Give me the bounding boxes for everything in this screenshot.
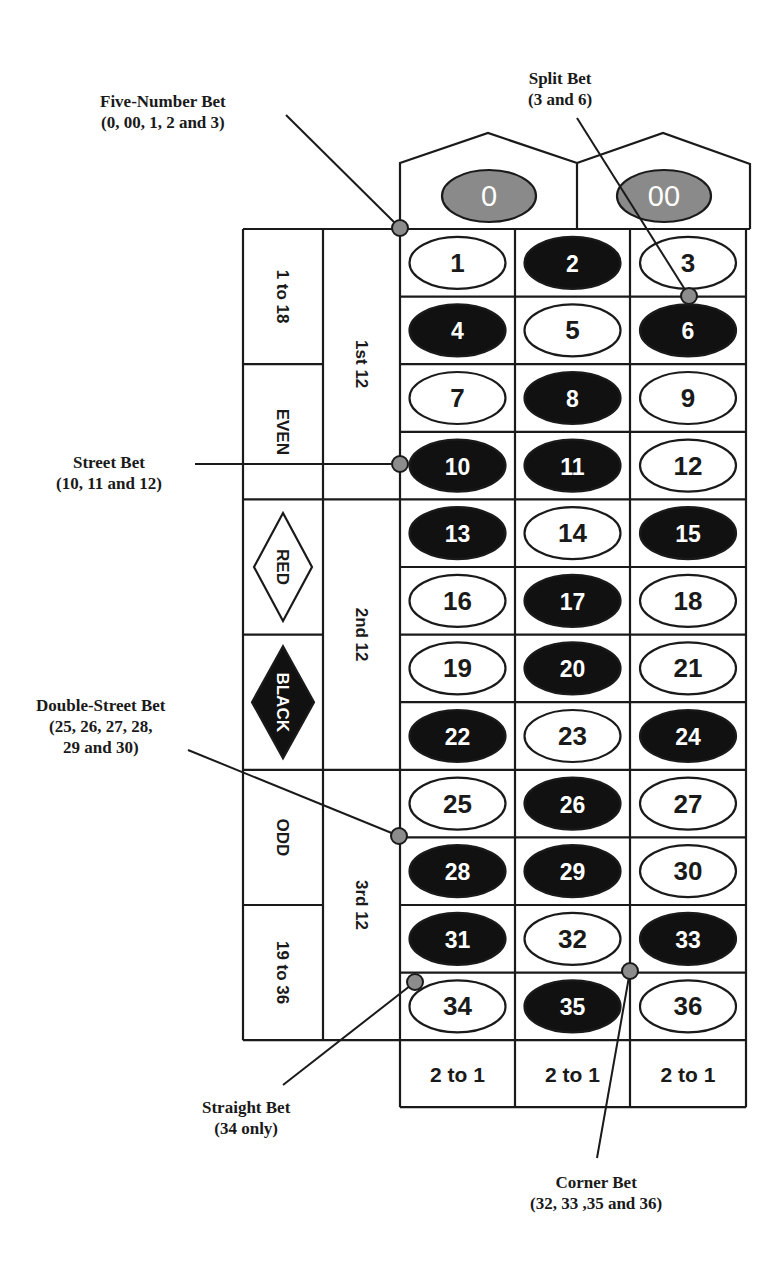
pocket-label: 18	[674, 586, 703, 616]
pocket-label: 22	[445, 724, 471, 750]
outside-bet-label: 19 to 36	[273, 941, 292, 1004]
outside-bets: 1 to 18EVENREDBLACKODD19 to 36	[243, 229, 323, 1040]
pocket-24[interactable]: 24	[640, 710, 736, 762]
outside-bet-1-to-18[interactable]: 1 to 18	[243, 229, 323, 364]
pocket-10[interactable]: 10	[410, 440, 506, 492]
pocket-36[interactable]: 36	[640, 980, 736, 1032]
pocket-16[interactable]: 16	[410, 575, 506, 627]
pocket-label: 25	[443, 789, 472, 819]
pocket-1[interactable]: 1	[410, 237, 506, 289]
pocket-15[interactable]: 15	[640, 507, 736, 559]
pocket-label: 29	[560, 859, 586, 885]
callout-double-street-bet: Double-Street Bet (25, 26, 27, 28, 29 an…	[36, 695, 166, 758]
pocket-label: 6	[682, 318, 695, 344]
pocket-label: 8	[566, 386, 579, 412]
outside-bet-red[interactable]: RED	[243, 499, 323, 634]
pocket-33[interactable]: 33	[640, 913, 736, 965]
pocket-12[interactable]: 12	[640, 440, 736, 492]
pocket-18[interactable]: 18	[640, 575, 736, 627]
column-bet-3[interactable]: 2 to 1	[630, 1040, 746, 1107]
outside-bet-even[interactable]: EVEN	[243, 364, 323, 499]
outside-bet-19-to-36[interactable]: 19 to 36	[243, 905, 323, 1040]
pocket-8[interactable]: 8	[525, 372, 621, 424]
pocket-label: 16	[443, 586, 472, 616]
column-bet-1[interactable]: 2 to 1	[400, 1040, 515, 1107]
pocket-13[interactable]: 13	[410, 507, 506, 559]
pocket-label: 11	[560, 454, 585, 480]
pocket-7[interactable]: 7	[410, 372, 506, 424]
callout-title: Straight Bet	[202, 1097, 290, 1118]
pocket-label: 30	[674, 856, 703, 886]
pocket-label: 5	[565, 315, 579, 345]
pocket-label: 0	[481, 180, 497, 212]
pocket-label: 34	[443, 991, 472, 1021]
dozen-label: 1st 12	[352, 340, 371, 388]
pocket-28[interactable]: 28	[410, 845, 506, 897]
pocket-22[interactable]: 22	[410, 710, 506, 762]
callout-five-number-bet: Five-Number Bet (0, 00, 1, 2 and 3)	[100, 91, 226, 133]
roulette-table: 0001 to 18EVENREDBLACKODD19 to 361st 122…	[0, 0, 784, 1269]
pocket-23[interactable]: 23	[525, 710, 621, 762]
pocket-21[interactable]: 21	[640, 642, 736, 694]
outside-bet-label: EVEN	[273, 409, 292, 455]
pocket-0[interactable]: 0	[442, 170, 536, 222]
column-label: 2 to 1	[545, 1063, 600, 1086]
pocket-34[interactable]: 34	[410, 980, 506, 1032]
pocket-label: 35	[560, 994, 586, 1020]
callout-detail-line1: (25, 26, 27, 28,	[36, 716, 166, 737]
chip-marker-five-number-icon	[392, 220, 408, 236]
pocket-label: 33	[675, 927, 701, 953]
pocket-32[interactable]: 32	[525, 913, 621, 965]
chip-marker-straight-icon	[407, 974, 423, 990]
outside-bet-label: RED	[273, 549, 292, 585]
pocket-label: 10	[445, 454, 471, 480]
callout-title: Five-Number Bet	[100, 91, 226, 112]
pocket-label: 2	[566, 251, 579, 277]
pocket-25[interactable]: 25	[410, 778, 506, 830]
pocket-2[interactable]: 2	[525, 237, 621, 289]
callout-detail: (10, 11 and 12)	[56, 473, 162, 494]
callout-detail: (34 only)	[202, 1118, 290, 1139]
pocket-31[interactable]: 31	[410, 913, 506, 965]
pocket-label: 9	[681, 383, 695, 413]
roulette-diagram: 0001 to 18EVENREDBLACKODD19 to 361st 122…	[0, 0, 784, 1269]
outside-bet-black[interactable]: BLACK	[243, 635, 323, 770]
pocket-label: 27	[674, 789, 703, 819]
pocket-4[interactable]: 4	[410, 304, 506, 356]
pocket-6[interactable]: 6	[640, 304, 736, 356]
pocket-11[interactable]: 11	[525, 440, 621, 492]
callout-title: Split Bet	[528, 68, 592, 89]
callout-title: Double-Street Bet	[36, 695, 166, 716]
pocket-9[interactable]: 9	[640, 372, 736, 424]
pocket-label: 26	[560, 792, 586, 818]
pocket-label: 1	[450, 248, 464, 278]
pocket-17[interactable]: 17	[525, 575, 621, 627]
callout-title: Street Bet	[56, 452, 162, 473]
callout-straight-bet: Straight Bet (34 only)	[202, 1097, 290, 1139]
pocket-29[interactable]: 29	[525, 845, 621, 897]
pocket-26[interactable]: 26	[525, 778, 621, 830]
pocket-30[interactable]: 30	[640, 845, 736, 897]
callout-detail: (3 and 6)	[528, 89, 592, 110]
pocket-5[interactable]: 5	[525, 304, 621, 356]
outside-bet-odd[interactable]: ODD	[243, 770, 323, 905]
pocket-20[interactable]: 20	[525, 642, 621, 694]
callout-detail: (0, 00, 1, 2 and 3)	[100, 112, 226, 133]
dozen-bet-2[interactable]: 2nd 12	[323, 499, 400, 769]
pocket-35[interactable]: 35	[525, 980, 621, 1032]
pocket-27[interactable]: 27	[640, 778, 736, 830]
pocket-label: 20	[560, 656, 586, 682]
callout-detail-line2: 29 and 30)	[36, 737, 166, 758]
pocket-label: 00	[648, 180, 680, 212]
column-label: 2 to 1	[430, 1063, 485, 1086]
pocket-19[interactable]: 19	[410, 642, 506, 694]
callout-title: Corner Bet	[530, 1172, 662, 1193]
dozen-bet-1[interactable]: 1st 12	[323, 229, 400, 499]
pocket-3[interactable]: 3	[640, 237, 736, 289]
pocket-00[interactable]: 00	[617, 170, 711, 222]
pocket-label: 24	[675, 724, 701, 750]
pocket-label: 4	[451, 318, 464, 344]
outside-bet-label: BLACK	[273, 672, 292, 732]
pocket-label: 13	[445, 521, 471, 547]
pocket-14[interactable]: 14	[525, 507, 621, 559]
